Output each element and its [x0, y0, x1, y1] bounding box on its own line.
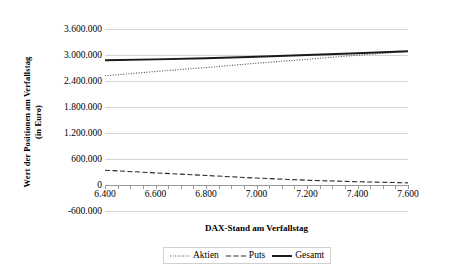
chart-legend: AktienPutsGesamt: [163, 247, 331, 264]
dotted-line-icon: [170, 253, 190, 259]
x-axis-title: DAX-Stand am Verfallstag: [105, 222, 408, 234]
legend-label: Puts: [249, 250, 265, 261]
gridline: [105, 211, 408, 212]
y-axis-tick-labels: -600.0000600.0001.200.0001.800.0002.400.…: [36, 0, 102, 275]
y-axis-tick-label: 2.400.000: [36, 76, 102, 86]
x-axis-tick-label: 6.600: [131, 188, 181, 200]
x-axis-tick-labels: 6.4006.6006.8007.0007.2007.4007.600: [105, 188, 408, 202]
x-axis-tick-label: 7.600: [383, 188, 433, 200]
y-axis-tick-label: 1.200.000: [36, 128, 102, 138]
series-line-aktien: [105, 51, 408, 75]
solid-line-icon: [272, 253, 292, 259]
x-axis-tick-label: 6.800: [181, 188, 231, 200]
y-axis-title-line1: Wert der Positionen am Verfallstag: [22, 22, 33, 222]
series-line-puts: [105, 170, 408, 183]
y-axis-tick-label: 3.600.000: [36, 24, 102, 34]
legend-label: Aktien: [193, 250, 219, 261]
plot-area: [105, 29, 408, 211]
series-lines: [105, 29, 408, 211]
x-axis-tick-label: 7.400: [333, 188, 383, 200]
x-axis-tick-label: 7.000: [232, 188, 282, 200]
line-chart: Wert der Positionen am Verfallstag (in E…: [0, 0, 452, 275]
x-axis-tick-label: 7.200: [282, 188, 332, 200]
legend-item-aktien[interactable]: Aktien: [170, 250, 219, 261]
legend-label: Gesamt: [295, 250, 324, 261]
y-axis-tick-label: 1.800.000: [36, 102, 102, 112]
series-line-gesamt: [105, 51, 408, 60]
y-axis-tick-label: 3.000.000: [36, 50, 102, 60]
x-axis-tick-label: 6.400: [80, 188, 130, 200]
legend-item-puts[interactable]: Puts: [226, 250, 265, 261]
dashed-line-icon: [226, 253, 246, 259]
y-axis-tick-label: -600.000: [36, 206, 102, 216]
legend-item-gesamt[interactable]: Gesamt: [272, 250, 324, 261]
y-axis-tick-label: 600.000: [36, 154, 102, 164]
